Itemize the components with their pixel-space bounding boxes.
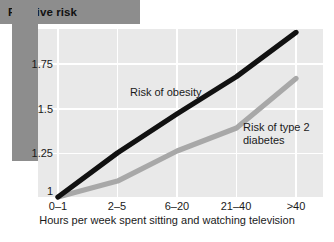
x-tick-label-21-40: 21–40 xyxy=(206,200,266,212)
series-label-diabetes-line2: diabetes xyxy=(243,134,285,146)
y-tick-label-1: 1 xyxy=(8,185,53,197)
series-label-diabetes-line1: Risk of type 2 xyxy=(243,121,310,133)
x-tick-label-2-5: 2–5 xyxy=(87,200,147,212)
y-tick-label-1-5: 1.5 xyxy=(8,103,53,115)
series-label-diabetes: Risk of type 2diabetes xyxy=(243,121,310,146)
x-tick-label-6-20: 6–20 xyxy=(147,200,207,212)
series-label-obesity: Risk of obesity xyxy=(130,86,202,99)
x-axis-title: Hours per week spent sitting and watchin… xyxy=(0,214,334,226)
x-tick-label-0-1: 0–1 xyxy=(28,200,88,212)
y-tick-label-1-25: 1.25 xyxy=(8,147,53,159)
y-tick-label-1-75: 1.75 xyxy=(8,58,53,70)
chart-figure: Relative risk 1.75 1.5 1.25 1 0–1 2–5 6–… xyxy=(0,0,334,242)
x-tick-label-over-40: >40 xyxy=(266,200,326,212)
